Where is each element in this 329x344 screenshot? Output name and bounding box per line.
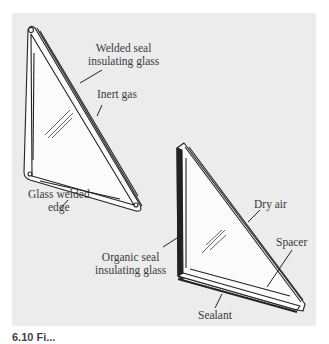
figure-caption: 6.10 Fi... [12, 331, 55, 344]
label-glass-welded-edge: Glass welded edge [28, 188, 90, 214]
label-inert-gas: Inert gas [97, 88, 137, 101]
label-spacer: Spacer [276, 236, 307, 249]
organic-seal-unit [177, 143, 305, 312]
label-organic-seal: Organic seal insulating glass [95, 251, 166, 277]
label-sealant: Sealant [198, 309, 232, 322]
label-welded-seal: Welded seal insulating glass [88, 42, 159, 68]
label-dry-air: Dry air [254, 198, 287, 211]
